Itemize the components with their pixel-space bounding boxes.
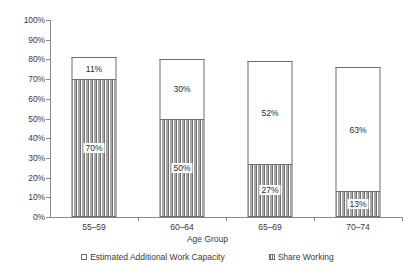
x-category-label: 70–74 [346, 222, 370, 232]
bar-segment-working[interactable]: 70% [72, 79, 117, 217]
bar-segment-capacity[interactable]: 30% [160, 59, 205, 118]
legend-label: Share Working [278, 252, 334, 262]
x-category-label: 60–64 [170, 222, 194, 232]
stacked-bar[interactable]: 11%70% [72, 57, 117, 217]
y-tick-label: 10% [28, 192, 50, 202]
bar-segment-label: 27% [259, 185, 280, 195]
bar-slot: 63%13% [314, 20, 402, 217]
x-category-label: 55–59 [82, 222, 106, 232]
bar-segment-working[interactable]: 50% [160, 119, 205, 218]
legend-item[interactable]: Share Working [269, 252, 334, 262]
bar-segment-label: 70% [83, 143, 104, 153]
legend-label: Estimated Additional Work Capacity [90, 252, 225, 262]
stacked-bar[interactable]: 63%13% [336, 67, 381, 217]
y-tick-label: 60% [28, 94, 50, 104]
y-tick-label: 20% [28, 173, 50, 183]
plot-area: 0%10%20%30%40%50%60%70%80%90%100% 11%70%… [50, 20, 402, 217]
stacked-bar-chart: 0%10%20%30%40%50%60%70%80%90%100% 11%70%… [0, 0, 415, 275]
x-tick-mark [138, 217, 139, 221]
legend-item[interactable]: Estimated Additional Work Capacity [81, 252, 225, 262]
bar-segment-working[interactable]: 13% [336, 191, 381, 217]
y-tick-label: 40% [28, 133, 50, 143]
bar-segment-capacity[interactable]: 63% [336, 67, 381, 191]
legend-swatch-icon [269, 254, 275, 260]
bar-slot: 30%50% [138, 20, 226, 217]
bar-segment-label: 52% [259, 108, 280, 118]
stacked-bar[interactable]: 30%50% [160, 59, 205, 217]
x-tick-mark [314, 217, 315, 221]
bar-slot: 52%27% [226, 20, 314, 217]
y-tick-label: 90% [28, 35, 50, 45]
bar-segment-capacity[interactable]: 11% [72, 57, 117, 79]
y-tick-label: 30% [28, 153, 50, 163]
bar-segment-label: 63% [347, 125, 368, 135]
bar-segment-label: 11% [84, 64, 104, 74]
x-tick-mark [402, 217, 403, 221]
x-tick-mark [226, 217, 227, 221]
bar-slot: 11%70% [50, 20, 138, 217]
y-tick-label: 50% [28, 114, 50, 124]
y-tick-label: 0% [33, 212, 50, 222]
bar-segment-label: 50% [171, 163, 192, 173]
stacked-bar[interactable]: 52%27% [248, 61, 293, 217]
x-axis-title: Age Group [0, 234, 415, 244]
y-tick-label: 100% [24, 15, 50, 25]
bar-segment-label: 30% [171, 84, 192, 94]
bar-segment-label: 13% [347, 199, 368, 209]
bar-segment-working[interactable]: 27% [248, 164, 293, 217]
y-tick-label: 70% [28, 74, 50, 84]
y-tick-label: 80% [28, 54, 50, 64]
bar-segment-capacity[interactable]: 52% [248, 61, 293, 163]
chart-legend: Estimated Additional Work CapacityShare … [0, 252, 415, 262]
x-category-label: 65–69 [258, 222, 282, 232]
legend-swatch-icon [81, 254, 87, 260]
